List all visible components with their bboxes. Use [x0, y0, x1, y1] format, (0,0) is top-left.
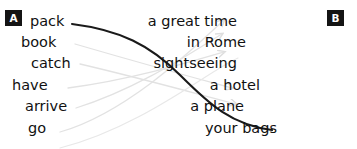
- column-a-item[interactable]: have: [12, 78, 48, 93]
- column-a-item[interactable]: catch: [31, 56, 71, 71]
- column-a-item[interactable]: arrive: [25, 99, 67, 114]
- column-b-item[interactable]: in Rome: [187, 35, 246, 50]
- matching-exercise: A B packbookcatchhavearrivego a great ti…: [0, 0, 357, 149]
- column-b-item[interactable]: your bags: [205, 121, 277, 136]
- column-b-item[interactable]: a plane: [190, 99, 244, 114]
- column-b-item[interactable]: a hotel: [210, 78, 260, 93]
- column-b-badge: B: [327, 10, 344, 26]
- column-a-badge: A: [5, 10, 22, 26]
- column-b-item[interactable]: a great time: [148, 14, 237, 29]
- column-a-item[interactable]: book: [21, 35, 56, 50]
- column-b-item[interactable]: sightseeing: [154, 56, 237, 71]
- column-a-item[interactable]: pack: [30, 14, 64, 29]
- column-a-item[interactable]: go: [28, 121, 46, 136]
